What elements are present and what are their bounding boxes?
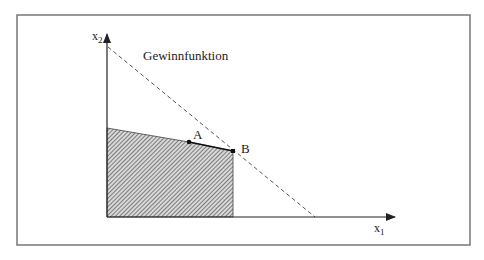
point-b-label: B <box>241 141 250 156</box>
diagram-frame <box>17 15 470 245</box>
feasible-region <box>107 128 233 217</box>
point-a-marker <box>187 140 192 145</box>
y-axis-label: x2 <box>92 29 103 45</box>
profit-function-label: Gewinnfunktion <box>143 48 229 63</box>
point-b-marker <box>231 149 235 153</box>
lp-diagram: A B Gewinnfunktion x2 x1 <box>0 0 484 260</box>
point-a-label: A <box>193 127 203 142</box>
x-axis-label: x1 <box>374 221 385 237</box>
